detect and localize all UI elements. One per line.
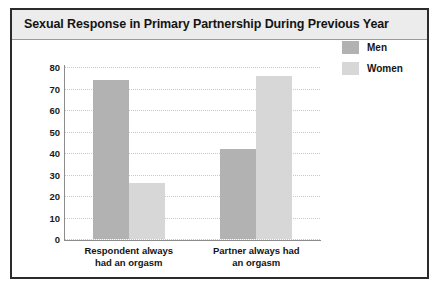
title-band: Sexual Response in Primary Partnership D… [12,10,427,40]
chart-title: Sexual Response in Primary Partnership D… [24,17,389,31]
bar-men-1 [220,149,256,239]
bar-women-1 [256,76,292,239]
y-axis-tick-label: 80 [30,63,60,72]
chart-figure: Sexual Response in Primary Partnership D… [10,8,429,279]
y-axis-tick-labels: 80706050403020100 [26,67,60,239]
x-axis-category-label-line: had an orgasm [65,257,193,269]
x-axis-category-label-line: an orgasm [193,257,321,269]
legend-label: Women [367,63,403,74]
x-axis-category-labels: Respondent alwayshad an orgasmPartner al… [65,245,320,279]
y-axis-tick-label: 20 [30,192,60,201]
y-axis-tick-label: 0 [30,235,60,244]
plot-area [65,67,320,239]
y-axis-tick-label: 30 [30,171,60,180]
x-axis-category-label: Partner always hadan orgasm [193,245,321,269]
legend-item-women: Women [342,59,424,77]
bar-women-0 [129,183,165,239]
y-axis-tick-label: 70 [30,85,60,94]
y-axis-tick-label: 60 [30,106,60,115]
legend-swatch-icon [342,41,359,54]
x-axis-category-label-line: Partner always had [193,245,321,257]
chart-legend: MenWomen [342,38,424,80]
x-axis-category-label: Respondent alwayshad an orgasm [65,245,193,269]
y-axis-tick-label: 40 [30,149,60,158]
x-axis-category-label-line: Respondent always [65,245,193,257]
bar-men-0 [93,80,129,239]
legend-swatch-icon [342,62,359,75]
x-axis-line [64,240,321,241]
gridline [65,239,320,240]
legend-label: Men [367,42,387,53]
gridline [65,67,320,68]
y-axis-tick-label: 50 [30,128,60,137]
y-axis-tick-label: 10 [30,214,60,223]
legend-item-men: Men [342,38,424,56]
